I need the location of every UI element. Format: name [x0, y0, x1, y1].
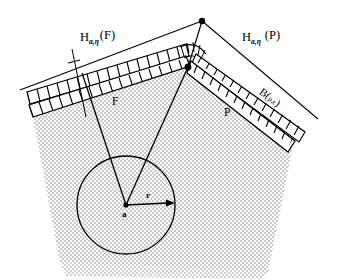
- label-center-point: a: [122, 210, 127, 219]
- label-face-right: P: [224, 107, 230, 119]
- label-halfspace-left-subscript: a,η: [89, 37, 99, 46]
- center-point-dot: [123, 202, 128, 207]
- label-halfspace-left-base: H: [80, 30, 89, 44]
- label-radius: r: [146, 191, 150, 200]
- label-halfspace-right-argument: (P): [265, 28, 280, 42]
- label-halfspace-right-base: H: [242, 30, 251, 44]
- apex-point-dot: [199, 18, 205, 24]
- label-halfspace-left-argument: (F): [100, 28, 115, 42]
- label-halfspace-right-subscript: a,η: [251, 37, 261, 46]
- label-halfspace-left: Ha,η(F): [80, 31, 114, 44]
- label-halfspace-right: Ha,η(P): [242, 31, 279, 44]
- vertex-point-dot: [185, 64, 192, 71]
- label-face-left: F: [112, 96, 118, 108]
- geometry-diagram: [0, 0, 350, 280]
- figure-container: Ha,η(F) Ha,η(P) F P B(p,ϵ) a r: [0, 0, 350, 280]
